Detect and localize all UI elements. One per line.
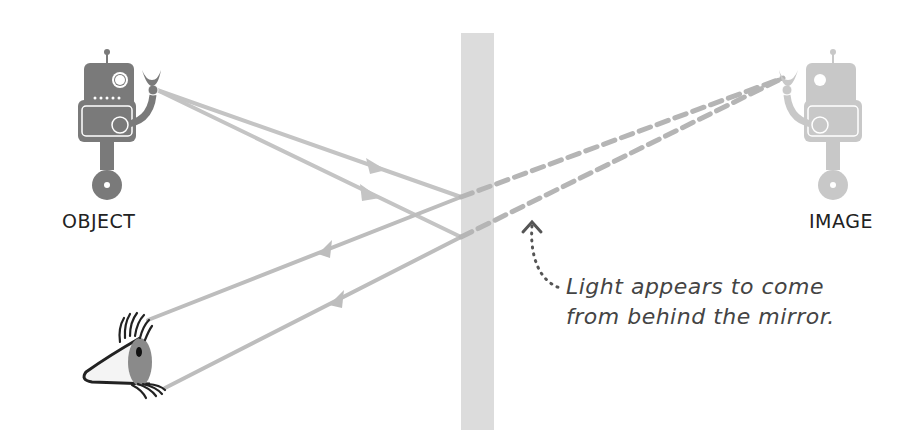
image-label: IMAGE xyxy=(809,210,873,232)
mirror-diagram xyxy=(0,0,922,441)
image-robot xyxy=(779,49,862,200)
annotation-text: Light appears to come from behind the mi… xyxy=(566,272,835,332)
eye xyxy=(84,313,165,398)
reflected-rays xyxy=(148,197,461,388)
annotation-arrow xyxy=(523,222,560,288)
mirror xyxy=(461,33,494,430)
object-robot xyxy=(78,49,161,200)
annotation-line-2: from behind the mirror. xyxy=(566,302,835,332)
virtual-rays xyxy=(461,78,783,237)
object-label: OBJECT xyxy=(62,210,135,232)
annotation-line-1: Light appears to come xyxy=(566,272,835,302)
